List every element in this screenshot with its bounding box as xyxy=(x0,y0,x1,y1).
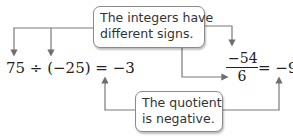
callout-line: is negative. xyxy=(142,111,216,127)
diagram: The integers have different signs. The q… xyxy=(0,0,293,136)
callout-line: different signs. xyxy=(100,26,198,42)
numerator: −54 xyxy=(226,50,258,68)
callout-quotient-negative: The quotient is negative. xyxy=(135,91,223,132)
division-expression: 75 ÷ (−25) = −3 xyxy=(6,59,135,77)
callout-different-signs: The integers have different signs. xyxy=(93,6,205,48)
callout-line: The quotient xyxy=(142,95,216,111)
fraction: −54 6 xyxy=(226,50,258,85)
denominator: 6 xyxy=(226,68,258,85)
fraction-result: = −9 xyxy=(258,59,293,77)
callout-line: The integers have xyxy=(100,10,198,26)
